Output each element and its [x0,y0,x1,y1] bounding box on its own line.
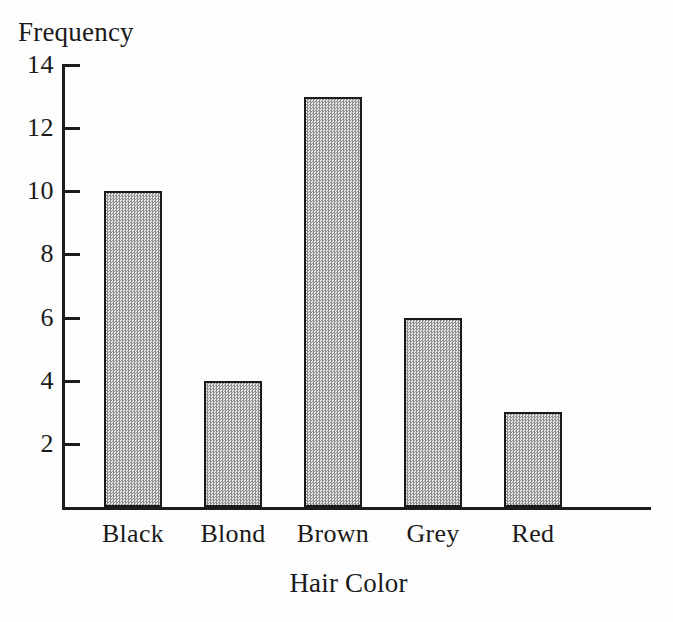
bar [104,191,162,507]
y-axis-tick-label: 6 [8,305,54,331]
x-axis-title: Hair Color [0,566,673,600]
plot-area: 2468101214 BlackBlondBrownGreyRed [0,0,673,622]
y-axis-tick-label: 14 [8,52,54,78]
y-axis-tick [64,443,80,446]
y-axis-tick [64,64,80,67]
bar [504,412,562,507]
x-axis-title-text: Hair Color [289,566,407,600]
y-axis-tick-label: 8 [8,241,54,267]
y-axis-tick [64,317,80,320]
bar [304,97,362,507]
x-axis-line [62,507,651,510]
y-axis-tick [64,253,80,256]
y-axis-tick-label: 2 [8,431,54,457]
x-axis-tick-label: Red [473,520,593,548]
bar-chart: Frequency 2468101214 BlackBlondBrownGrey… [0,0,673,622]
y-axis-tick [64,127,80,130]
y-axis-tick-label: 10 [8,178,54,204]
y-axis-tick [64,190,80,193]
y-axis-tick [64,380,80,383]
y-axis-tick-label: 4 [8,368,54,394]
bar [404,318,462,507]
y-axis-tick-label: 12 [8,115,54,141]
bar [204,381,262,507]
